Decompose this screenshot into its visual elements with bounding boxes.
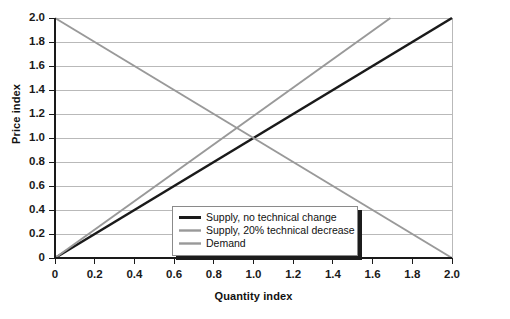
y-tick-label: 2.0 — [15, 11, 45, 23]
y-tick-label: 1.2 — [15, 107, 45, 119]
x-tick-label: 1.8 — [392, 268, 432, 280]
y-tick-label: 0.6 — [15, 179, 45, 191]
chart-legend: Supply, no technical change Supply, 20% … — [172, 206, 358, 256]
y-tick-label: 1.4 — [15, 83, 45, 95]
x-tick-label: 1.0 — [234, 268, 274, 280]
y-tick-label: 0.2 — [15, 227, 45, 239]
chart-figure: Price index Quantity index 00.20.40.60.8… — [0, 0, 510, 319]
x-tick-label: 1.4 — [313, 268, 353, 280]
y-tick-label: 1.6 — [15, 59, 45, 71]
legend-item: Demand — [179, 237, 351, 250]
x-tick-label: 0.2 — [75, 268, 115, 280]
y-tick-label: 0 — [15, 251, 45, 263]
legend-swatch-demand — [179, 238, 201, 249]
y-tick-label: 0.8 — [15, 155, 45, 167]
y-tick-label: 0.4 — [15, 203, 45, 215]
legend-swatch-supply-no-technical-change — [179, 212, 201, 223]
x-tick-label: 1.2 — [273, 268, 313, 280]
legend-item: Supply, 20% technical decrease — [179, 224, 351, 237]
y-tick-label: 1.0 — [15, 131, 45, 143]
legend-label: Supply, no technical change — [206, 211, 337, 224]
legend-swatch-supply-20-technical-decrease — [179, 225, 201, 236]
x-tick-label: 0.8 — [194, 268, 234, 280]
legend-label: Supply, 20% technical decrease — [206, 224, 355, 237]
legend-label: Demand — [206, 237, 246, 250]
x-tick-label: 2.0 — [432, 268, 472, 280]
x-tick-label: 0 — [35, 268, 75, 280]
x-tick-label: 0.6 — [154, 268, 194, 280]
x-tick-label: 1.6 — [353, 268, 393, 280]
y-tick-label: 1.8 — [15, 35, 45, 47]
legend-item: Supply, no technical change — [179, 211, 351, 224]
x-tick-label: 0.4 — [114, 268, 154, 280]
